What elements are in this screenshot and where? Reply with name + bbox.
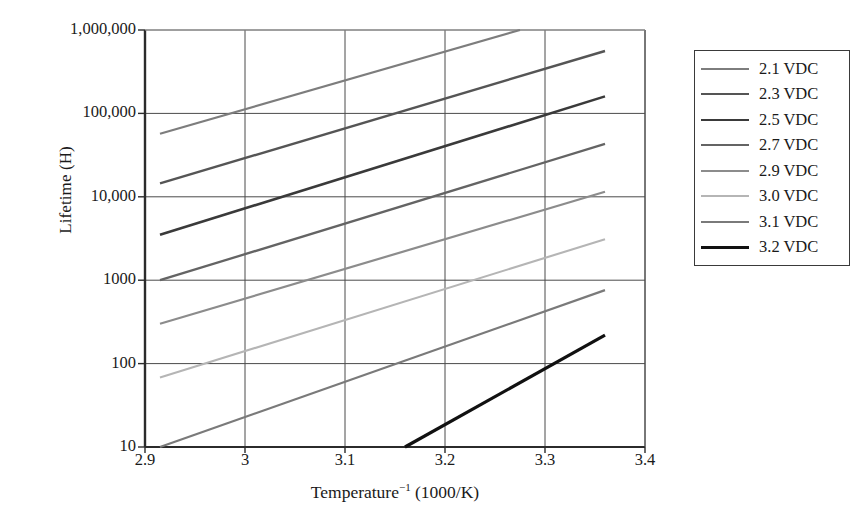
legend-item[interactable]: 2.1 VDC bbox=[695, 57, 849, 81]
legend-item-label: 2.3 VDC bbox=[759, 86, 818, 103]
legend-item[interactable]: 3.2 VDC bbox=[695, 235, 849, 259]
legend: 2.1 VDC2.3 VDC2.5 VDC2.7 VDC2.9 VDC3.0 V… bbox=[694, 50, 850, 266]
x-tick-label: 2.9 bbox=[115, 452, 175, 469]
x-tick-label: 3.3 bbox=[515, 452, 575, 469]
legend-item[interactable]: 2.7 VDC bbox=[695, 133, 849, 157]
legend-item-list: 2.1 VDC2.3 VDC2.5 VDC2.7 VDC2.9 VDC3.0 V… bbox=[695, 51, 849, 265]
legend-line-swatch bbox=[701, 144, 749, 146]
legend-item[interactable]: 2.9 VDC bbox=[695, 159, 849, 183]
legend-item[interactable]: 3.0 VDC bbox=[695, 184, 849, 208]
legend-item-label: 3.0 VDC bbox=[759, 188, 818, 205]
axis-ticks bbox=[138, 30, 645, 453]
legend-item-label: 3.1 VDC bbox=[759, 214, 818, 231]
legend-line-swatch bbox=[701, 246, 749, 249]
x-axis-title-main: Temperature bbox=[311, 482, 399, 502]
legend-item-label: 2.1 VDC bbox=[759, 61, 818, 78]
x-tick-label: 3.1 bbox=[315, 452, 375, 469]
legend-line-swatch bbox=[701, 93, 749, 95]
legend-line-swatch bbox=[701, 170, 749, 172]
x-axis-title: Temperature−1 (1000/K) bbox=[145, 482, 645, 503]
x-tick-label: 3.2 bbox=[415, 452, 475, 469]
x-tick-label: 3.4 bbox=[615, 452, 675, 469]
legend-item[interactable]: 3.1 VDC bbox=[695, 210, 849, 234]
legend-item-label: 2.9 VDC bbox=[759, 163, 818, 180]
series-line-3-2-vdc bbox=[405, 335, 605, 447]
x-axis-title-unit: (1000/K) bbox=[411, 482, 480, 502]
legend-item-label: 3.2 VDC bbox=[759, 239, 818, 256]
legend-item-label: 2.5 VDC bbox=[759, 112, 818, 129]
legend-line-swatch bbox=[701, 68, 749, 70]
x-axis-title-exponent: −1 bbox=[399, 481, 411, 493]
chart-figure: Lifetime (H) 10100100010,000100,0001,000… bbox=[0, 0, 860, 531]
x-tick-label: 3 bbox=[215, 452, 275, 469]
legend-item[interactable]: 2.5 VDC bbox=[695, 108, 849, 132]
legend-line-swatch bbox=[701, 119, 749, 121]
legend-item-label: 2.7 VDC bbox=[759, 137, 818, 154]
legend-line-swatch bbox=[701, 221, 749, 223]
gridlines bbox=[145, 30, 645, 447]
series-line-3-1-vdc bbox=[160, 290, 605, 447]
data-series-lines bbox=[160, 30, 605, 447]
legend-item[interactable]: 2.3 VDC bbox=[695, 82, 849, 106]
series-line-2-1-vdc bbox=[160, 30, 520, 134]
axis-lines bbox=[145, 30, 645, 447]
legend-line-swatch bbox=[701, 195, 749, 197]
